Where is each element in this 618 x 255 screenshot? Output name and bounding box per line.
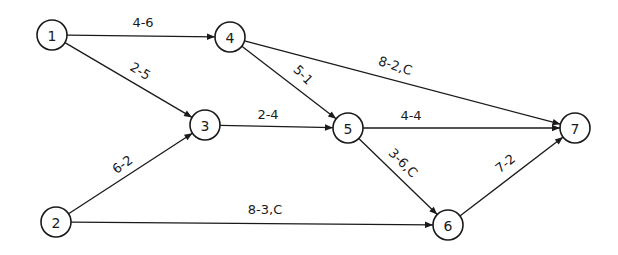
edge-labels-layer: 4-62-56-22-45-18-2,C4-43-6,C8-3,C7-2 [109, 15, 518, 217]
edge-2-to-6 [71, 222, 433, 225]
edge-label-1-3: 2-5 [127, 59, 153, 83]
node-4: 4 [215, 22, 245, 52]
edge-2-to-3 [69, 133, 193, 214]
edge-6-to-7 [460, 137, 563, 216]
edge-label-5-6: 3-6,C [386, 145, 421, 180]
edge-label-4-5: 5-1 [290, 62, 316, 88]
node-1: 1 [37, 20, 67, 50]
nodes-layer: 1234567 [37, 20, 590, 240]
edge-arrow [71, 222, 433, 225]
edge-label-3-5: 2-4 [257, 107, 278, 122]
node-label: 3 [201, 118, 210, 134]
node-label: 7 [571, 121, 580, 137]
edge-arrow [65, 43, 192, 118]
edge-label-6-7: 7-2 [492, 151, 518, 176]
edge-3-to-5 [220, 125, 333, 127]
edge-label-2-6: 8-3,C [248, 202, 282, 217]
edge-arrow [460, 137, 563, 216]
node-label: 5 [344, 121, 353, 137]
edge-label-4-7: 8-2,C [377, 53, 414, 78]
edge-arrow [242, 46, 336, 119]
edge-1-to-3 [65, 43, 192, 118]
node-label: 6 [444, 218, 453, 234]
edge-label-1-4: 4-6 [132, 15, 153, 30]
network-diagram: 4-62-56-22-45-18-2,C4-43-6,C8-3,C7-2 123… [0, 0, 618, 255]
edge-arrow [69, 133, 193, 214]
node-label: 1 [48, 28, 57, 44]
node-label: 2 [52, 215, 61, 231]
node-label: 4 [226, 30, 235, 46]
node-2: 2 [41, 207, 71, 237]
node-3: 3 [190, 110, 220, 140]
node-6: 6 [433, 210, 463, 240]
edge-1-to-4 [67, 35, 215, 37]
edge-4-to-5 [242, 46, 336, 119]
node-7: 7 [560, 113, 590, 143]
edge-label-5-7: 4-4 [400, 108, 421, 123]
edge-arrow [220, 125, 333, 127]
node-5: 5 [333, 113, 363, 143]
edge-arrow [67, 35, 215, 37]
